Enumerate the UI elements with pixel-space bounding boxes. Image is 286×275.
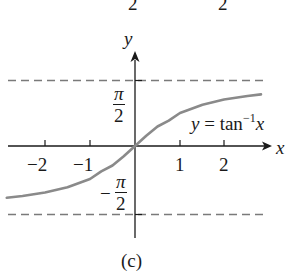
top-fragment-den-right: 2 bbox=[218, 0, 228, 13]
curve-label-eq: = tan bbox=[199, 113, 242, 134]
x-tick-label-neg1: −1 bbox=[73, 155, 93, 174]
y-axis-label: y bbox=[124, 29, 132, 48]
curve-label-sup: −1 bbox=[243, 111, 256, 125]
graph-canvas bbox=[0, 0, 286, 275]
x-tick-label-neg2: −2 bbox=[27, 155, 47, 174]
x-tick-label-1: 1 bbox=[175, 155, 185, 174]
y-tick-2: 2 bbox=[114, 105, 124, 125]
y-tick-2-lower: 2 bbox=[116, 193, 126, 213]
y-tick-label-neg-pi-over-2: π 2 bbox=[115, 172, 127, 213]
figure-caption: (c) bbox=[121, 251, 142, 270]
curve-label: y = tan−1x bbox=[191, 112, 264, 133]
x-axis-label: x bbox=[276, 138, 284, 157]
y-tick-label-pi-over-2: π 2 bbox=[113, 84, 125, 125]
top-fragment-den-left: 2 bbox=[128, 0, 138, 13]
y-tick-pi: π bbox=[113, 84, 125, 105]
curve-label-x: x bbox=[256, 113, 264, 134]
y-tick-pi-lower: π bbox=[115, 172, 127, 193]
y-tick-neg-sign: − bbox=[100, 184, 111, 203]
x-tick-label-2: 2 bbox=[219, 155, 229, 174]
